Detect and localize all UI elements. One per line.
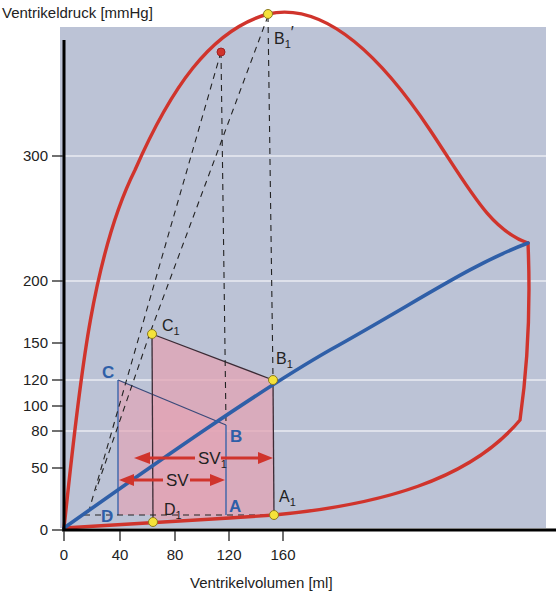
- label-d: D: [101, 507, 113, 526]
- y-axis-title: Ventrikeldruck [mmHg]: [2, 4, 153, 21]
- svg-text:150: 150: [23, 334, 48, 351]
- svg-text:0: 0: [60, 546, 68, 563]
- label-a: A: [229, 497, 241, 516]
- svg-text:120: 120: [216, 546, 241, 563]
- x-axis-ticks: [64, 531, 283, 541]
- svg-text:80: 80: [167, 546, 184, 563]
- point-a1: [270, 511, 279, 520]
- point-c1: [148, 330, 157, 339]
- point-d1: [149, 518, 158, 527]
- svg-text:0: 0: [40, 521, 48, 538]
- x-axis-title: Ventrikelvolumen [ml]: [190, 574, 333, 591]
- x-axis-tick-labels: 0 40 80 120 160: [60, 546, 296, 563]
- svg-text:160: 160: [270, 546, 295, 563]
- svg-text:100: 100: [23, 397, 48, 414]
- point-b1: [269, 376, 278, 385]
- label-c: C: [102, 363, 114, 382]
- svg-text:40: 40: [112, 546, 129, 563]
- label-sv: SV: [166, 471, 189, 490]
- pressure-volume-diagram: 300 200 150 120 100 80 50 0 0 40 80 120 …: [0, 0, 556, 593]
- point-b1-prime: [264, 10, 273, 19]
- svg-text:300: 300: [23, 147, 48, 164]
- svg-text:120: 120: [23, 371, 48, 388]
- y-axis-tick-labels: 300 200 150 120 100 80 50 0: [23, 147, 48, 538]
- label-b: B: [230, 427, 242, 446]
- point-isovolumetric-max: [217, 48, 225, 56]
- svg-text:200: 200: [23, 272, 48, 289]
- svg-text:80: 80: [31, 422, 48, 439]
- svg-text:50: 50: [31, 459, 48, 476]
